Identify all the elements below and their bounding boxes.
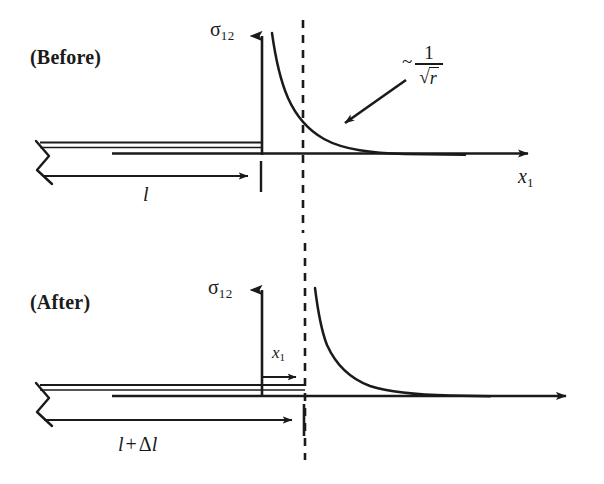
crack-length-label-after: l+Δl — [118, 434, 157, 454]
length-plus-operator: + — [124, 433, 139, 455]
length-delta-base-symbol: l — [152, 433, 158, 455]
offset-x-subscript: 1 — [280, 351, 286, 363]
panel-title-after: (After) — [30, 292, 90, 312]
asymptotic-law-annotation: ~ 1 √r — [402, 43, 443, 87]
x-axis-label-before: x1 — [518, 166, 533, 189]
sqrt-group: √r — [419, 67, 438, 87]
x-symbol-before: x — [518, 165, 527, 187]
stress-curve-after — [315, 288, 490, 396]
one-over-sqrt-r-fraction: 1 √r — [415, 43, 442, 87]
fraction-denominator: √r — [415, 65, 442, 87]
delta-symbol: Δ — [139, 433, 152, 455]
sigma-symbol-after: σ — [208, 276, 219, 298]
stress-axis-label-after: σ12 — [208, 277, 233, 300]
fraction-numerator: 1 — [420, 43, 438, 63]
x-subscript-before: 1 — [527, 175, 534, 190]
panel-title-before: (Before) — [30, 47, 101, 67]
stress-axis-label-before: σ12 — [210, 19, 235, 42]
crack-faces-before — [40, 143, 262, 148]
sigma-symbol-before: σ — [210, 18, 221, 40]
sigma-subscript-before: 12 — [221, 28, 235, 43]
crack-tip-stress-figure: (Before) σ12 x1 l ~ 1 √r (After) σ12 x1 … — [0, 0, 604, 484]
length-base-symbol: l — [118, 433, 124, 455]
crack-length-dimension-before — [44, 161, 261, 192]
radicand-r: r — [429, 67, 439, 87]
asymptote-pointer-arrow — [345, 80, 406, 123]
crack-length-label-before: l — [143, 184, 149, 204]
crack-faces-after — [40, 385, 305, 390]
offset-x-symbol: x — [272, 343, 280, 362]
crack-length-dimension-after — [44, 404, 304, 436]
offset-label-after: x1 — [272, 344, 285, 363]
sigma-subscript-after: 12 — [219, 286, 233, 301]
figure-canvas — [0, 0, 604, 484]
tilde-symbol: ~ — [402, 52, 412, 71]
